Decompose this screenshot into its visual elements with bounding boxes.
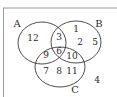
region-B-only-5: 5 — [92, 37, 98, 47]
region-C-only-11: 11 — [66, 66, 77, 76]
set-b-label: B — [95, 18, 102, 29]
set-c-label: C — [71, 84, 79, 95]
region-B-only-1: 1 — [73, 24, 79, 34]
region-A-only: 12 — [27, 33, 38, 43]
region-A-B-C: 6 — [56, 46, 62, 56]
region-B-and-C-only: 10 — [66, 51, 78, 61]
region-A-and-B-only: 3 — [56, 32, 62, 42]
set-a-label: A — [12, 18, 21, 29]
venn-diagram: ABC 123125961078114 — [0, 0, 117, 97]
region-outside: 4 — [94, 75, 100, 85]
region-C-only-8: 8 — [56, 66, 62, 76]
region-C-only-7: 7 — [43, 66, 49, 76]
region-B-only-2: 2 — [77, 37, 83, 47]
region-A-and-C-only: 9 — [43, 50, 49, 60]
